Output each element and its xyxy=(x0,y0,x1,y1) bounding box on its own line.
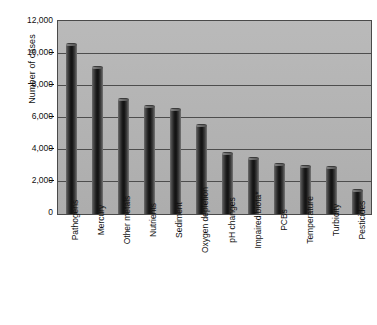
y-axis-tick-labels: 12,000 10,000 8,000 6,000 4,000 2,000 0 xyxy=(0,0,53,325)
y-tick-mark xyxy=(49,180,54,181)
x-tick-label-wrapper: Impaired biota* xyxy=(246,214,260,314)
x-tick-label-wrapper: Pesticides xyxy=(350,214,364,314)
x-tick-label-wrapper: Temperature xyxy=(298,214,312,314)
x-tick-label-wrapper: Pathogens xyxy=(63,214,77,314)
bar-top-cap xyxy=(352,189,363,192)
bar-top-cap xyxy=(144,105,155,108)
gridline xyxy=(58,85,371,86)
x-tick-label-wrapper: Sediment xyxy=(167,214,181,314)
bar xyxy=(274,165,285,214)
bar xyxy=(92,68,103,214)
plot-area xyxy=(57,20,372,215)
x-tick-label-wrapper: pH changes xyxy=(220,214,234,314)
bar-top-cap xyxy=(196,124,207,127)
bar-top-cap xyxy=(248,157,259,160)
x-tick-label-wrapper: Mercury xyxy=(89,214,103,314)
x-tick-label-wrapper: Nutrients xyxy=(141,214,155,314)
x-tick-label: pH changes xyxy=(227,197,237,242)
x-tick-label: Nutrients xyxy=(148,203,158,237)
bar xyxy=(144,107,155,214)
bar-top-cap xyxy=(66,43,77,46)
x-tick-label-wrapper: Oxygen depletion xyxy=(193,214,207,314)
y-tick-label: 2,000 xyxy=(9,176,53,185)
x-tick-label: Oxygen depletion xyxy=(200,187,210,253)
bar xyxy=(170,110,181,214)
bar-chart-figure: Number of cases 12,000 10,000 8,000 6,00… xyxy=(0,0,377,325)
y-tick-label: 10,000 xyxy=(9,48,53,57)
bar-top-cap xyxy=(274,163,285,166)
bar xyxy=(66,45,77,214)
x-tick-label: Sediment xyxy=(174,202,184,238)
x-tick-label: Mercury xyxy=(96,205,106,236)
x-tick-label-wrapper: PCBs xyxy=(272,214,286,314)
y-tick-label: 0 xyxy=(9,208,53,217)
y-tick-label: 8,000 xyxy=(9,80,53,89)
y-tick-mark xyxy=(49,52,54,53)
y-tick-label: 4,000 xyxy=(9,144,53,153)
gridline xyxy=(58,117,371,118)
gridline xyxy=(58,53,371,54)
bar-top-cap xyxy=(170,108,181,111)
x-tick-label: Turbidity xyxy=(331,204,341,236)
x-tick-label: Other metals xyxy=(122,196,132,245)
x-tick-label-wrapper: Turbidity xyxy=(324,214,338,314)
bar-top-cap xyxy=(222,152,233,155)
y-tick-mark xyxy=(49,116,54,117)
bar-top-cap xyxy=(326,166,337,169)
y-tick-mark xyxy=(49,84,54,85)
x-tick-label: Pesticides xyxy=(357,201,367,240)
gridline xyxy=(58,181,371,182)
bar-top-cap xyxy=(118,98,129,101)
bar-top-cap xyxy=(92,66,103,69)
x-tick-label-wrapper: Other metals xyxy=(115,214,129,314)
x-tick-label: PCBs xyxy=(279,209,289,231)
y-tick-label: 6,000 xyxy=(9,112,53,121)
x-tick-label: Pathogens xyxy=(70,200,80,241)
y-tick-label: 12,000 xyxy=(9,16,53,25)
bar-top-cap xyxy=(300,165,311,168)
gridline xyxy=(58,149,371,150)
x-axis-tick-labels: PathogensMercuryOther metalsNutrientsSed… xyxy=(57,214,370,324)
x-tick-label: Impaired biota* xyxy=(253,191,263,248)
x-tick-label: Temperature xyxy=(305,196,315,244)
y-tick-mark xyxy=(49,148,54,149)
